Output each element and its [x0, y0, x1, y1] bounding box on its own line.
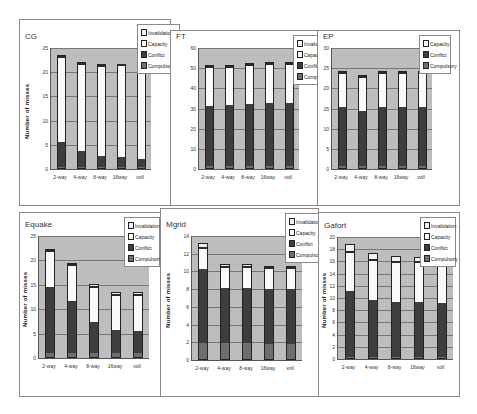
chart-title: FT [176, 32, 186, 41]
bar-segment-conflict [246, 104, 253, 166]
bar-segment-conflict [392, 302, 400, 358]
y-tick-label: 5 [22, 331, 36, 337]
bar-segment-capacity [138, 67, 145, 160]
stacked-bar [133, 292, 143, 358]
bar-segment-conflict [369, 300, 377, 357]
y-tick-label: 6 [175, 304, 189, 310]
stacked-bar [265, 62, 274, 169]
y-tick-label: 8 [175, 286, 189, 292]
bar-segment-compulsory [112, 353, 120, 357]
bar-segment-compulsory [392, 357, 400, 358]
legend-label: Conflict [296, 241, 313, 247]
stacked-bar [198, 243, 208, 360]
bar-segment-compulsory [379, 166, 386, 168]
legend-item-conflict: Conflict [128, 242, 156, 253]
stacked-bar [391, 256, 401, 359]
stacked-bar [338, 71, 347, 169]
y-tick-label: 12 [175, 251, 189, 257]
y-tick-label: 20 [22, 257, 36, 263]
y-tick-label: 5 [315, 146, 329, 152]
legend-label: Capacity [430, 41, 449, 47]
x-tick-label: 16way [103, 363, 127, 369]
bar-segment-capacity [78, 65, 85, 152]
bar-segment-compulsory [438, 357, 446, 358]
y-tick-label: 0 [175, 357, 189, 363]
stacked-bar [137, 64, 146, 170]
y-tick-label: 5 [34, 142, 48, 148]
legend-swatch-icon [297, 40, 303, 47]
y-tick-label: 15 [315, 106, 329, 112]
y-tick-label: 10 [182, 146, 196, 152]
bar-segment-conflict [206, 106, 213, 166]
legend-label: Conflict [135, 245, 152, 251]
bar-segment-conflict [199, 269, 207, 343]
legend-item-conflict: Conflict [424, 242, 452, 253]
bar-segment-conflict [287, 289, 295, 344]
legend-item-compulsory: Compulsory [423, 60, 447, 71]
chart-title: Equake [25, 220, 52, 229]
bar-segment-compulsory [286, 166, 293, 168]
legend-label: Conflict [430, 52, 447, 58]
bar-segment-compulsory [138, 167, 145, 168]
stacked-bar [57, 55, 66, 169]
bar-segment-conflict [419, 107, 426, 166]
chart-legend: InvalidationCapacityConflictCompulsory [420, 217, 456, 267]
x-tick-label: 2-way [190, 365, 214, 371]
bar-segment-capacity [265, 269, 273, 289]
bar-segment-capacity [286, 65, 293, 103]
legend-swatch-icon [424, 244, 430, 251]
legend-label: Compulsory [430, 63, 457, 69]
x-tick-label: voll [278, 365, 302, 371]
legend-label: Compulsory [135, 256, 162, 262]
chart-panel-equake: EquakeNumber of misses05101520252-way4-w… [19, 212, 161, 397]
stacked-bar [358, 75, 367, 169]
legend-swatch-icon [423, 51, 429, 58]
y-tick-label: 20 [182, 126, 196, 132]
bar-segment-compulsory [359, 166, 366, 168]
legend-item-compulsory: Compulsory [128, 253, 156, 264]
stacked-bar [117, 64, 126, 170]
bar-segment-capacity [287, 269, 295, 289]
stacked-bar [45, 249, 55, 358]
bar-segment-compulsory [118, 167, 125, 168]
x-tick-label: voll [276, 174, 300, 180]
y-tick-label: 20 [321, 234, 335, 240]
y-tick-label: 8 [321, 307, 335, 313]
stacked-bar [245, 63, 254, 169]
stacked-bar [345, 244, 355, 359]
legend-swatch-icon [289, 229, 295, 236]
y-tick-label: 10 [34, 118, 48, 124]
bar-segment-capacity [379, 74, 386, 107]
x-tick-label: 8-way [81, 363, 105, 369]
stacked-bar [368, 253, 378, 359]
bar-segment-conflict [98, 156, 105, 167]
bar-segment-capacity [359, 78, 366, 111]
legend-swatch-icon [141, 62, 147, 69]
y-tick-label: 18 [321, 246, 335, 252]
bar-segment-conflict [266, 103, 273, 166]
legend-item-conflict: Conflict [423, 49, 447, 60]
bar-segment-capacity [266, 65, 273, 103]
legend-label: Capacity [148, 41, 167, 47]
x-tick-label: 16way [256, 365, 280, 371]
y-tick-label: 14 [321, 271, 335, 277]
bar-segment-conflict [359, 111, 366, 166]
bar-segment-conflict [134, 331, 142, 354]
y-tick-label: 25 [315, 65, 329, 71]
x-tick-label: 4-way [212, 365, 236, 371]
bar-segment-capacity [243, 268, 251, 288]
stacked-bar [242, 264, 252, 360]
legend-swatch-icon [128, 222, 134, 229]
y-tick-label: 10 [22, 306, 36, 312]
legend-item-compulsory: Compulsory [424, 253, 452, 264]
legend-label: Invalidation [135, 223, 160, 229]
bar-segment-capacity [58, 58, 65, 142]
bar-segment-conflict [415, 302, 423, 357]
bar-segment-conflict [221, 288, 229, 344]
bar-segment-compulsory [346, 357, 354, 358]
bar-segment-conflict [243, 288, 251, 344]
bar-segment-conflict [90, 322, 98, 353]
bar-segment-compulsory [98, 167, 105, 168]
chart-title: Mgrid [166, 220, 186, 229]
bar-segment-capacity [98, 67, 105, 156]
